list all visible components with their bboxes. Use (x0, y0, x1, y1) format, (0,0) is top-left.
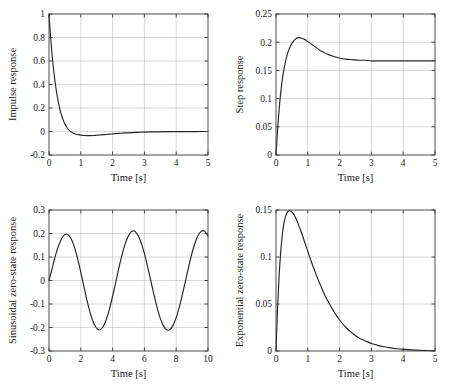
y-tick-label: 0 (267, 346, 272, 356)
y-tick-label: 0.4 (33, 80, 45, 90)
x-tick-label: 2 (78, 354, 83, 364)
x-tick-label: 0 (47, 354, 52, 364)
y-axis-title: Sinusoidal zero-state response (7, 217, 18, 344)
y-axis-title: Exponential zero-state response (234, 213, 245, 347)
x-axis-title: Time [s] (338, 172, 374, 183)
sinusoidal-zero-state-response-plot: 0246810-0.3-0.2-0.100.10.20.3Time [s]Sin… (0, 196, 227, 392)
y-tick-label: -0.2 (30, 323, 45, 333)
x-tick-label: 3 (142, 158, 147, 168)
x-tick-label: 3 (369, 158, 374, 168)
x-axis-title: Time [s] (338, 368, 374, 379)
panel-sinusoidal-zero-state-response: 0246810-0.3-0.2-0.100.10.20.3Time [s]Sin… (0, 196, 227, 392)
data-curve (276, 38, 435, 155)
four-panel-response-figure: 012345-0.200.20.40.60.81Time [s]Impulse … (0, 0, 454, 392)
y-tick-label: 0.05 (255, 122, 272, 132)
x-tick-label: 4 (110, 354, 115, 364)
x-tick-label: 5 (206, 158, 211, 168)
y-tick-label: 0.3 (33, 205, 45, 215)
x-tick-label: 10 (203, 354, 213, 364)
y-tick-label: 0.05 (255, 299, 272, 309)
x-axis-title: Time [s] (111, 368, 147, 379)
y-tick-label: 0 (267, 150, 272, 160)
x-tick-label: 0 (47, 158, 52, 168)
y-axis-title: Step response (234, 55, 245, 113)
sinusoidal-plot-group: 0246810-0.3-0.2-0.100.10.20.3Time [s]Sin… (7, 205, 213, 379)
y-tick-label: 0 (40, 127, 45, 137)
x-axis-title: Time [s] (111, 172, 147, 183)
y-tick-label: -0.3 (30, 346, 45, 356)
y-tick-label: 0.15 (255, 205, 272, 215)
y-tick-label: 0.15 (255, 66, 272, 76)
y-tick-label: 0.2 (33, 103, 45, 113)
x-tick-label: 1 (78, 158, 83, 168)
exponential-plot-group: 01234500.050.10.15Time [s]Exponential ze… (234, 205, 438, 379)
x-tick-label: 3 (369, 354, 374, 364)
y-axis-title: Impulse response (7, 48, 18, 122)
x-tick-label: 5 (433, 158, 438, 168)
x-tick-label: 0 (274, 354, 279, 364)
x-tick-label: 1 (305, 354, 310, 364)
x-tick-label: 0 (274, 158, 279, 168)
y-tick-label: 1 (40, 9, 45, 19)
y-tick-label: 0.1 (260, 252, 272, 262)
x-tick-label: 8 (174, 354, 179, 364)
y-tick-label: 0.2 (260, 38, 272, 48)
x-tick-label: 2 (337, 158, 342, 168)
y-tick-label: 0.25 (255, 9, 272, 19)
y-tick-label: 0.2 (33, 229, 45, 239)
x-tick-label: 1 (305, 158, 310, 168)
y-tick-label: 0.1 (33, 252, 45, 262)
panel-step-response: 01234500.050.10.150.20.25Time [s]Step re… (227, 0, 454, 196)
plot-frame (276, 14, 435, 155)
panel-exponential-zero-state-response: 01234500.050.10.15Time [s]Exponential ze… (227, 196, 454, 392)
x-tick-label: 4 (401, 158, 406, 168)
x-tick-label: 2 (110, 158, 115, 168)
x-tick-label: 4 (401, 354, 406, 364)
y-tick-label: -0.2 (30, 150, 45, 160)
step-response-plot: 01234500.050.10.150.20.25Time [s]Step re… (227, 0, 454, 196)
x-tick-label: 4 (174, 158, 179, 168)
plot-frame (276, 210, 435, 351)
x-tick-label: 6 (142, 354, 147, 364)
y-tick-label: 0.6 (33, 56, 45, 66)
y-tick-label: 0.1 (260, 94, 272, 104)
y-tick-label: -0.1 (30, 299, 45, 309)
panel-impulse-response: 012345-0.200.20.40.60.81Time [s]Impulse … (0, 0, 227, 196)
x-tick-label: 5 (433, 354, 438, 364)
x-tick-label: 2 (337, 354, 342, 364)
step-plot-group: 01234500.050.10.150.20.25Time [s]Step re… (234, 9, 438, 183)
y-tick-label: 0.8 (33, 33, 45, 43)
impulse-plot-group: 012345-0.200.20.40.60.81Time [s]Impulse … (7, 9, 211, 183)
data-curve (276, 211, 435, 351)
data-curve (49, 14, 208, 136)
exponential-zero-state-response-plot: 01234500.050.10.15Time [s]Exponential ze… (227, 196, 454, 392)
impulse-response-plot: 012345-0.200.20.40.60.81Time [s]Impulse … (0, 0, 227, 196)
y-tick-label: 0 (40, 276, 45, 286)
